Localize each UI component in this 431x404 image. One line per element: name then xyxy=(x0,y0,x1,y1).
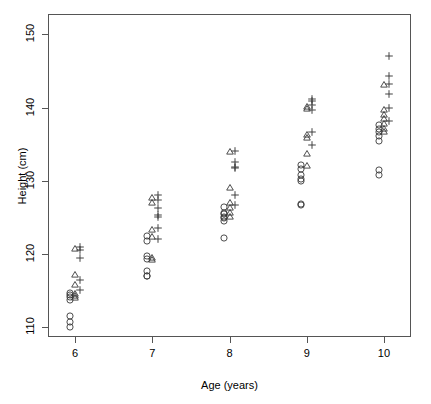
x-tick-label: 10 xyxy=(364,347,404,359)
x-tick-mark xyxy=(384,337,385,343)
y-tick-mark xyxy=(42,327,48,328)
x-tick-mark xyxy=(307,337,308,343)
scatter-plot-figure: 678910 110120130140150 Age (years) Heigh… xyxy=(0,0,431,404)
y-tick-label: 110 xyxy=(24,306,36,346)
plot-frame xyxy=(48,14,411,337)
y-axis-title: Height (cm) xyxy=(16,136,28,216)
x-tick-label: 6 xyxy=(55,347,95,359)
y-tick-label: 150 xyxy=(24,13,36,53)
x-tick-mark xyxy=(230,337,231,343)
y-tick-mark xyxy=(42,181,48,182)
x-axis-title: Age (years) xyxy=(170,379,290,391)
x-tick-mark xyxy=(152,337,153,343)
x-tick-label: 7 xyxy=(132,347,172,359)
y-tick-label: 140 xyxy=(24,87,36,127)
y-tick-mark xyxy=(42,34,48,35)
y-tick-mark xyxy=(42,108,48,109)
y-tick-label: 120 xyxy=(24,233,36,273)
x-tick-mark xyxy=(75,337,76,343)
y-tick-mark xyxy=(42,254,48,255)
x-tick-label: 8 xyxy=(210,347,250,359)
x-tick-label: 9 xyxy=(287,347,327,359)
